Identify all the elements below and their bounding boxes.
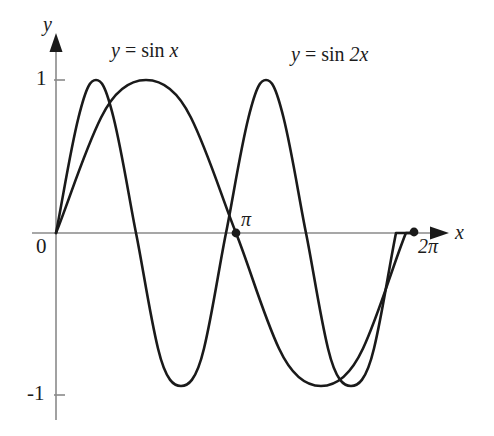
- x-tick-label-pi: π: [241, 209, 251, 229]
- curve-annotation-sin-2x-argument: 2x: [345, 43, 369, 65]
- y-tick-label-minus-1: -1: [27, 383, 45, 404]
- marked-point-pi: [232, 229, 241, 238]
- origin-label: 0: [36, 236, 47, 257]
- x-axis-label: x: [455, 222, 464, 242]
- curve-annotation-sin-x-variable: y: [111, 39, 120, 61]
- curve-annotation-sin-x: y = sin x: [111, 40, 178, 60]
- y-axis-label: y: [43, 14, 52, 34]
- sine-curves-figure: y x 1 -1 0 π 2π y = sin x y = sin 2x: [0, 0, 494, 436]
- y-axis-arrowhead: [50, 33, 63, 52]
- y-tick-label-1: 1: [36, 68, 47, 89]
- curve-annotation-sin-2x-equals: =: [300, 43, 321, 65]
- curve-annotation-sin-x-equals: =: [120, 39, 141, 61]
- curve-annotation-sin-x-argument: x: [165, 39, 179, 61]
- curve-annotation-sin-x-function: sin: [141, 39, 164, 61]
- x-tick-label-two-pi: 2π: [418, 236, 438, 256]
- curve-annotation-sin-2x-function: sin: [321, 43, 344, 65]
- curve-annotation-sin-2x-variable: y: [291, 43, 300, 65]
- curve-annotation-sin-2x: y = sin 2x: [291, 44, 368, 64]
